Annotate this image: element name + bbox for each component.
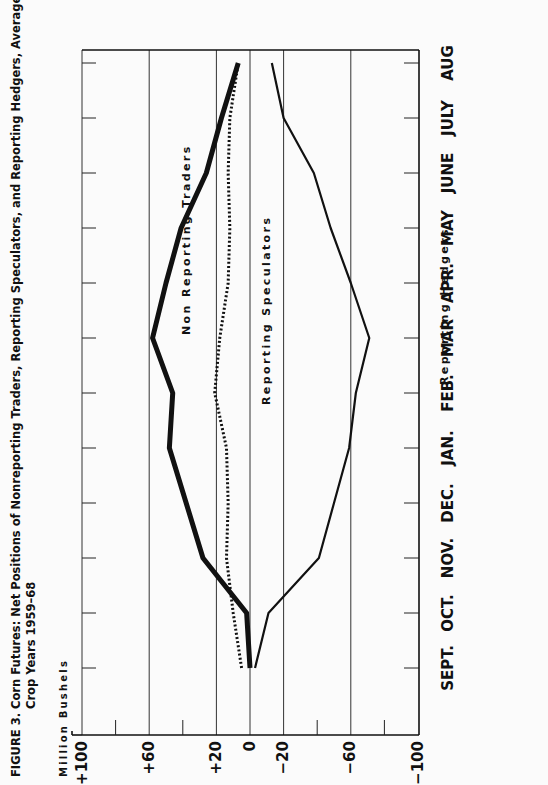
y-tick-label: 0	[241, 741, 259, 751]
y-tick-label: −20	[274, 741, 292, 774]
month-label: JULY	[439, 99, 457, 137]
month-label: JUNE	[439, 153, 457, 195]
chart: FIGURE 3. Corn Futures: Net Positions of…	[0, 0, 548, 785]
series-label-non-reporting-traders: Non Reporting Traders	[180, 144, 193, 335]
y-tick-label: −60	[341, 741, 359, 774]
gridlines	[82, 50, 351, 735]
rotated-figure: FIGURE 3. Corn Futures: Net Positions of…	[0, 0, 548, 785]
chart-title-line2: Crop Years 1959–68	[24, 582, 38, 709]
series-line-non-reporting-traders	[153, 63, 250, 668]
month-label: DEC.	[439, 483, 457, 522]
month-label: JAN.	[439, 430, 457, 466]
y-tick-label: +20	[207, 741, 225, 774]
y-tick-label: −100	[409, 741, 427, 785]
series-label-reporting-hedgers: Reporting Hedgers	[438, 227, 451, 385]
month-label: OCT.	[439, 594, 457, 631]
month-label: NOV.	[439, 538, 457, 578]
month-label: AUG	[439, 45, 457, 81]
y-axis-label: Million Bushels	[58, 659, 69, 777]
series-label-reporting-speculators: Reporting Speculators	[260, 216, 273, 405]
month-label: SEPT.	[439, 645, 457, 691]
chart-title-line1: FIGURE 3. Corn Futures: Net Positions of…	[9, 0, 23, 777]
y-tick-label: +60	[140, 741, 158, 774]
y-tick-label: +100	[73, 741, 91, 785]
